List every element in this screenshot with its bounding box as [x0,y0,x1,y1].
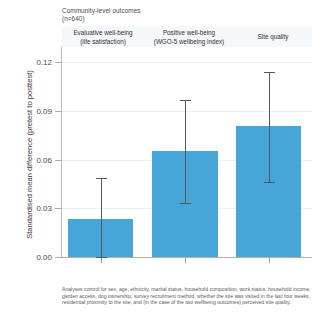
y-axis-tick [55,62,62,63]
error-bar-cap-lower [264,182,275,183]
y-axis-tick-label: 0.06 [36,155,52,164]
chart-title: Community-level outcomes (n=640) [62,7,141,24]
y-axis-tick-label: 0.12 [36,58,52,67]
column-header-evaluative-wellbeing: Evaluative well-being (life satisfaction… [62,26,144,47]
y-axis-tick [55,208,62,209]
error-bar-cap-upper [96,178,107,179]
gridline [62,111,312,112]
y-axis-label: Standardised mean difference (pretest to… [25,40,34,270]
x-axis-tick [185,258,186,263]
error-bar-line [101,178,102,257]
y-axis-tick [55,160,62,161]
column-header-site-quality: Site quality [234,26,312,47]
error-bar-line [269,72,270,182]
error-bar-cap-upper [264,72,275,73]
gridline [62,62,312,63]
error-bar-cap-upper [180,100,191,101]
x-axis-tick [269,258,270,263]
chart-footnote: Analyses control for sex, age, ethnicity… [62,286,312,306]
error-bar-cap-lower [180,203,191,204]
chart-figure: Community-level outcomes (n=640) Evaluat… [0,0,324,333]
column-header-positive-wellbeing: Positive well-being (WGO-5 wellbeing ind… [146,26,232,47]
y-axis-tick-label: 0.09 [36,107,52,116]
error-bar-line [185,100,186,203]
y-axis-tick-label: 0.00 [36,253,52,262]
y-axis-tick [55,257,62,258]
y-axis-tick [55,111,62,112]
x-axis-tick [101,258,102,263]
y-axis-tick-label: 0.03 [36,204,52,213]
